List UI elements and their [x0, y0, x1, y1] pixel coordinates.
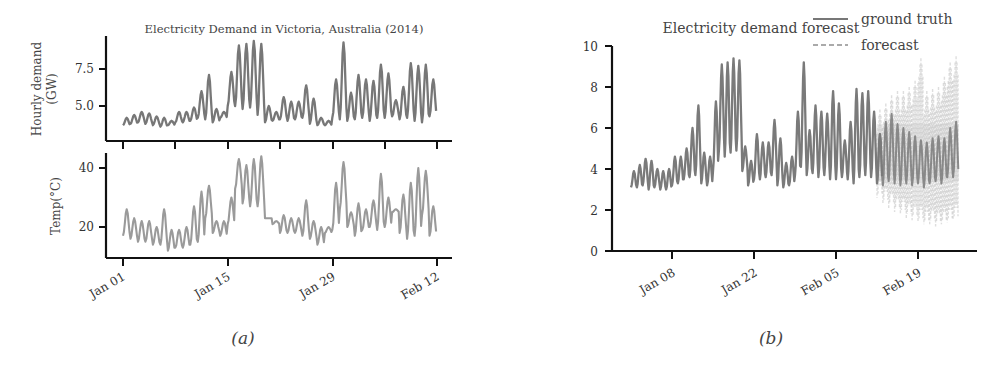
- panel-a: Electricity Demand in Victoria, Australi…: [30, 22, 452, 348]
- ground-truth-line: [631, 58, 882, 189]
- forecast-yticks: 0246810: [583, 40, 612, 259]
- temperature-line: [123, 156, 436, 250]
- xtick-label: Feb 12: [399, 269, 442, 302]
- figure: Electricity Demand in Victoria, Australi…: [0, 0, 1005, 368]
- ytick-label: 2: [590, 204, 598, 218]
- ytick-label: 6: [590, 122, 598, 136]
- caption-b: (b): [759, 328, 783, 348]
- ytick-label: 7.5: [75, 62, 94, 76]
- ytick-label: 40: [79, 161, 94, 175]
- xtick-label: Jan 22: [717, 265, 759, 298]
- ytick-label: 10: [583, 40, 598, 54]
- xtick-label: Jan 01: [85, 269, 127, 302]
- panel-a-title: Electricity Demand in Victoria, Australi…: [145, 22, 424, 36]
- ytick-label: 0: [590, 245, 598, 259]
- temp-ylabel: Temp(°C): [49, 177, 63, 235]
- ytick-label: 5.0: [75, 99, 94, 113]
- caption-a: (a): [231, 328, 254, 348]
- demand-axes: 7.5 5.0 Hourly demand (GW): [30, 36, 452, 149]
- temp-axes: 40 20 Jan 01 Jan 15 Jan 29 Feb 12 Temp(°…: [49, 153, 452, 302]
- demand-ylabel: Hourly demand: [30, 42, 44, 137]
- demand-ylabel-unit: (GW): [45, 73, 59, 104]
- demand-xticks: [123, 141, 437, 149]
- demand-line: [123, 41, 436, 127]
- forecast-xticks: Jan 08Jan 22Feb 05Feb 19: [635, 251, 923, 298]
- forecast-samples: [877, 56, 959, 226]
- ytick-label: 20: [79, 220, 94, 234]
- ytick-label: 8: [590, 81, 598, 95]
- xtick-label: Jan 08: [635, 265, 677, 298]
- panel-b-title: Electricity demand forecast: [663, 20, 860, 36]
- xtick-label: Jan 29: [295, 269, 337, 302]
- legend-ground-truth: ground truth: [861, 11, 953, 27]
- ytick-label: 4: [590, 163, 598, 177]
- panel-b: Electricity demand forecast 0246810 Jan …: [583, 11, 977, 348]
- xtick-label: Feb 05: [799, 265, 842, 298]
- legend-forecast: forecast: [861, 37, 919, 53]
- xtick-label: Feb 19: [881, 265, 924, 298]
- xtick-label: Jan 15: [190, 269, 232, 302]
